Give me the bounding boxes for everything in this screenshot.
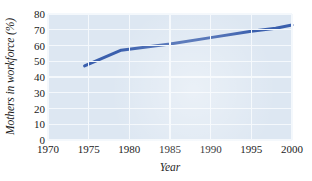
- x-tick-label: 1985: [148, 144, 192, 155]
- y-tick-label: 40: [23, 72, 45, 83]
- gridline-vertical: [169, 14, 170, 140]
- y-tick-label: 70: [23, 24, 45, 35]
- x-tick-label: 1990: [189, 144, 233, 155]
- y-tick-label: 80: [23, 9, 45, 20]
- y-axis-ticks: 01020304050607080: [0, 14, 45, 140]
- plot-area: [48, 14, 292, 140]
- gridline-vertical: [251, 14, 252, 140]
- x-tick-label: 1970: [26, 144, 70, 155]
- y-tick-label: 50: [23, 56, 45, 67]
- gridline-vertical: [210, 14, 211, 140]
- x-tick-label: 1995: [229, 144, 273, 155]
- gridline-vertical: [47, 14, 48, 140]
- x-tick-label: 1980: [107, 144, 151, 155]
- x-axis-ticks: 1970197519801985199019952000: [48, 144, 292, 158]
- gridline-vertical: [291, 14, 292, 140]
- x-tick-label: 1975: [67, 144, 111, 155]
- x-axis-label: Year: [48, 160, 292, 174]
- gridline-vertical: [129, 14, 130, 140]
- y-tick-label: 30: [23, 87, 45, 98]
- y-tick-label: 20: [23, 103, 45, 114]
- y-tick-label: 10: [23, 119, 45, 130]
- x-tick-label: 2000: [270, 144, 312, 155]
- gridline-vertical: [88, 14, 89, 140]
- y-tick-label: 60: [23, 40, 45, 51]
- chart-figure: Mothers in workforce (%) 010203040506070…: [0, 0, 312, 181]
